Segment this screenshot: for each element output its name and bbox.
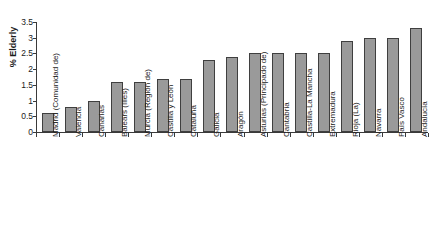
x-axis-category-label: Cantabria — [282, 102, 291, 137]
x-axis-category-label: Madrid (Comunidad de) — [51, 53, 60, 137]
x-axis-category-label: Galicia — [212, 113, 221, 137]
bar-chart: % Elderly 00.511.522.533.5 Madrid (Comun… — [0, 0, 439, 249]
x-axis-category-label: Murcia (Región de) — [143, 69, 152, 137]
x-axis-category-label: Extremadura — [328, 91, 337, 137]
y-axis-tick-mark — [33, 22, 37, 23]
x-axis-category-label: Balears (Illes) — [120, 88, 129, 137]
y-axis-tick-label: 0.5 — [11, 111, 33, 121]
x-axis-category-label: Valencia — [74, 107, 83, 137]
x-axis-category-label: Aragón — [236, 111, 245, 137]
x-axis-category-label: País Vasco — [397, 97, 406, 137]
y-axis-tick-label: 2 — [11, 64, 33, 74]
x-axis-category-label: Castilla y León — [166, 85, 175, 137]
x-axis-category-label: Andalucía — [420, 101, 429, 137]
x-axis-category-label: Asturias (Principado de) — [259, 52, 268, 137]
y-axis-tick-label: 3 — [11, 33, 33, 43]
y-axis-tick-label: 1 — [11, 96, 33, 106]
y-axis-tick-mark — [33, 38, 37, 39]
x-axis-line — [36, 132, 428, 133]
y-axis-tick-mark — [33, 116, 37, 117]
y-axis-tick-label: 2.5 — [11, 48, 33, 58]
y-axis-tick-label: 1.5 — [11, 80, 33, 90]
x-axis-category-label: Castilla-La Mancha — [305, 69, 314, 137]
x-axis-category-label: Cataluña — [189, 105, 198, 137]
x-axis-category-label: Canarias — [97, 105, 106, 137]
x-axis-tick-mark — [36, 133, 37, 137]
y-axis-tick-mark — [33, 69, 37, 70]
y-axis-tick-mark — [33, 101, 37, 102]
y-axis-tick-label: 0 — [11, 127, 33, 137]
plot-area: 00.511.522.533.5 — [36, 22, 428, 132]
x-axis-category-label: Navarra — [374, 109, 383, 137]
x-axis-category-label: Rioja (La) — [351, 102, 360, 137]
y-axis-tick-label: 3.5 — [11, 17, 33, 27]
y-axis-tick-mark — [33, 85, 37, 86]
y-axis-tick-mark — [33, 53, 37, 54]
